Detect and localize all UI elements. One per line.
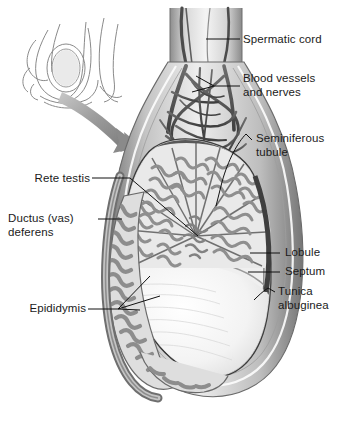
anatomy-illustration (0, 0, 351, 422)
label-septum: Septum (285, 265, 325, 279)
label-epididymis: Epididymis (8, 302, 86, 316)
label-rete-testis: Rete testis (10, 172, 90, 186)
inset-testis-fill (53, 50, 79, 86)
label-blood-vessels-and-nerves: Blood vessels and nerves (243, 72, 315, 99)
spermatic-cord (170, 8, 242, 66)
figure-canvas: Spermatic cord Blood vessels and nerves … (0, 0, 351, 422)
label-ductus-vas-deferens: Ductus (vas) deferens (8, 212, 98, 239)
label-tunica-albuginea: Tunica albuginea (278, 285, 329, 312)
label-lobule: Lobule (285, 246, 320, 260)
label-seminiferous-tubule: Seminiferous tubule (256, 132, 324, 159)
label-spermatic-cord: Spermatic cord (243, 33, 322, 47)
